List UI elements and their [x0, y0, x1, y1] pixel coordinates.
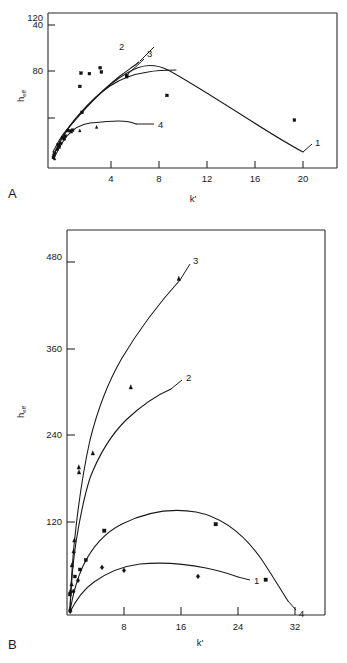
chart-b-ytick-label-240: 240: [46, 429, 62, 440]
chart-b-ytick-label-480: 480: [46, 251, 62, 262]
chart-a-xtick-label-16: 16: [250, 173, 261, 184]
svg-text:heff: heff: [15, 406, 27, 418]
chart-a-xtick-label-4: 4: [108, 173, 113, 184]
chart-a-ytick-label-80: 80: [32, 65, 43, 76]
chart-b-xtick-label-8: 8: [121, 621, 126, 632]
chart-panel-b: 120 240 360 480 8 16 24 32 k' heff: [0, 212, 347, 663]
chart-a-curve-3: [53, 70, 176, 157]
chart-b-y-axis-title-sub: eff: [21, 406, 27, 413]
chart-b-y-ticks: [67, 262, 75, 522]
chart-b-curve-label-3: 3: [193, 255, 198, 266]
chart-a-label-leaders: [128, 47, 312, 152]
chart-b-y-axis-title: heff: [15, 406, 27, 418]
chart-panel-a: 40 80 120 4 8 12 16 20 k' heff: [0, 0, 347, 212]
chart-b-ytick-label-120: 120: [46, 516, 62, 527]
panel-letter-a: A: [8, 186, 17, 201]
chart-a-curve-1: [53, 65, 303, 152]
chart-a-x-ticks: [111, 161, 303, 168]
chart-b-curve-label-2: 2: [186, 372, 191, 383]
figure-container: 40 80 120 4 8 12 16 20 k' heff: [0, 0, 347, 663]
chart-b-xtick-label-24: 24: [233, 621, 244, 632]
chart-a-markers-1: [52, 71, 296, 159]
chart-b-label-leaders: [171, 264, 296, 610]
chart-a-axes: [48, 13, 337, 168]
chart-a-y-axis-title: heff: [15, 90, 27, 102]
chart-a-markers-3: [53, 72, 129, 157]
panel-letter-b: B: [8, 637, 17, 652]
chart-b-axes: [67, 230, 325, 615]
chart-a-curve-label-2: 2: [119, 41, 124, 52]
chart-a-curve-label-4: 4: [158, 119, 163, 130]
chart-a-xtick-label-12: 12: [202, 173, 213, 184]
chart-b-ytick-label-360: 360: [46, 343, 62, 354]
chart-b-markers-1: [68, 565, 199, 614]
svg-text:heff: heff: [15, 90, 27, 102]
chart-a-ytick-label-120: 120: [27, 12, 43, 23]
chart-b-xtick-label-16: 16: [176, 621, 187, 632]
chart-a-x-axis-title: k': [190, 193, 197, 204]
chart-a-xtick-label-20: 20: [298, 173, 309, 184]
chart-b-x-ticks: [124, 607, 295, 615]
chart-a-y-ticks: [48, 25, 55, 118]
chart-b-curve-1: [70, 563, 238, 612]
chart-b-markers-4: [68, 523, 267, 597]
chart-b-markers-2: [69, 385, 133, 593]
chart-a-xtick-label-8: 8: [156, 173, 161, 184]
chart-b-curve-label-1: 1: [254, 575, 259, 586]
chart-a-curve-4: [54, 121, 136, 158]
chart-b-x-axis-title: k': [197, 637, 204, 648]
chart-a-y-axis-title-sub: eff: [21, 90, 27, 97]
chart-a-curve-label-1: 1: [315, 137, 320, 148]
chart-b-xtick-label-32: 32: [290, 621, 301, 632]
chart-a-curve-label-3: 3: [147, 48, 152, 59]
chart-b-curve-4: [70, 511, 288, 612]
chart-b-curve-label-4: 4: [299, 608, 304, 619]
chart-b-curve-2: [70, 389, 171, 610]
chart-a-svg: 40 80 120 4 8 12 16 20 k' heff: [0, 0, 347, 212]
chart-b-content: 120 240 360 480 8 16 24 32 k' heff: [0, 212, 347, 663]
